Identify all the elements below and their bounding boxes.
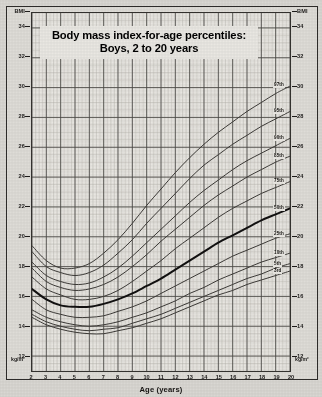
percentile-label-95th: 95th	[273, 108, 285, 114]
percentile-curves-layer	[32, 13, 290, 371]
percentile-label-75th: 75th	[273, 179, 285, 185]
x-tick-17: 17	[241, 375, 255, 381]
y-tick-16: 16	[19, 294, 30, 300]
y-tick-22: 22	[19, 204, 30, 210]
x-axis-title: Age (years)	[0, 385, 322, 394]
x-tick-5: 5	[67, 375, 81, 381]
plot-area	[31, 12, 291, 372]
y-tick-bmi: BMI	[292, 9, 308, 15]
x-tick-11: 11	[154, 375, 168, 381]
y-tick-bmi: BMI	[14, 9, 30, 15]
x-tick-12: 12	[168, 375, 182, 381]
x-tick-3: 3	[38, 375, 52, 381]
percentile-label-50th: 50th	[273, 206, 285, 212]
x-tick-18: 18	[255, 375, 269, 381]
x-tick-15: 15	[212, 375, 226, 381]
x-tick-2: 2	[24, 375, 38, 381]
x-tick-7: 7	[96, 375, 110, 381]
y-tick-28: 28	[19, 114, 30, 120]
y-tick-34: 34	[19, 24, 30, 30]
y-tick-26: 26	[19, 144, 30, 150]
y-tick-30: 30	[19, 84, 30, 90]
y-tick-30: 30	[292, 84, 303, 90]
x-tick-10: 10	[140, 375, 154, 381]
y-tick-24: 24	[292, 174, 303, 180]
x-tick-9: 9	[125, 375, 139, 381]
x-tick-13: 13	[183, 375, 197, 381]
percentile-label-90th: 90th	[273, 135, 285, 141]
y-tick-18: 18	[292, 264, 303, 270]
x-tick-20: 20	[284, 375, 298, 381]
y-unit-right: kg/m²	[295, 357, 309, 362]
x-tick-14: 14	[197, 375, 211, 381]
percentile-label-85th: 85th	[273, 153, 285, 159]
y-tick-18: 18	[19, 264, 30, 270]
y-tick-14: 14	[292, 324, 303, 330]
y-tick-26: 26	[292, 144, 303, 150]
y-tick-24: 24	[19, 174, 30, 180]
x-tick-6: 6	[82, 375, 96, 381]
chart-page: BMI343230282624222018161412 BMI343230282…	[0, 0, 322, 397]
y-tick-20: 20	[292, 234, 303, 240]
y-tick-32: 32	[292, 54, 303, 60]
x-tick-4: 4	[53, 375, 67, 381]
y-unit-left: kg/m²	[11, 357, 25, 362]
x-tick-16: 16	[226, 375, 240, 381]
y-tick-20: 20	[19, 234, 30, 240]
y-tick-22: 22	[292, 204, 303, 210]
percentile-label-10th: 10th	[273, 251, 285, 257]
percentile-label-97th: 97th	[273, 83, 285, 89]
percentile-label-25th: 25th	[273, 231, 285, 237]
y-tick-34: 34	[292, 24, 303, 30]
y-tick-32: 32	[19, 54, 30, 60]
x-tick-19: 19	[270, 375, 284, 381]
y-tick-16: 16	[292, 294, 303, 300]
percentile-label-3rd: 3rd	[273, 269, 282, 275]
x-tick-8: 8	[111, 375, 125, 381]
percentile-label-5th: 5th	[273, 261, 282, 267]
y-tick-28: 28	[292, 114, 303, 120]
y-tick-14: 14	[19, 324, 30, 330]
